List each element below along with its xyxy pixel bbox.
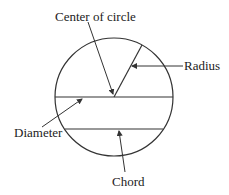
radius-line [114, 45, 142, 97]
radius-label: Radius [184, 58, 220, 73]
diameter-arrow [42, 99, 82, 127]
chord-arrow [119, 131, 125, 172]
center-label: Center of circle [55, 9, 136, 24]
diameter-label: Diameter [14, 125, 63, 140]
center-arrow [88, 22, 113, 94]
chord-label: Chord [112, 174, 145, 189]
circle-diagram: Center of circle Radius Diameter Chord [0, 0, 229, 195]
